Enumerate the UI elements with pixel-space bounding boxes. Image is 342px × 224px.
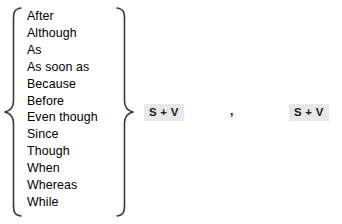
list-item: While [27, 194, 115, 211]
left-curly-brace-icon [2, 6, 24, 218]
list-item: Before [27, 93, 115, 110]
subject-verb-token-second: S + V [289, 104, 329, 121]
list-item: Because [27, 76, 115, 93]
list-item: Since [27, 126, 115, 143]
clause-separator-comma: , [230, 104, 233, 118]
conjunction-group: After Although As As soon as Because Bef… [0, 0, 150, 224]
list-item: Although [27, 25, 115, 42]
list-item: After [27, 8, 115, 25]
list-item: As soon as [27, 59, 115, 76]
list-item: Whereas [27, 177, 115, 194]
clause-pattern: S + V , S + V [140, 0, 342, 224]
list-item: Though [27, 143, 115, 160]
subject-verb-token-first: S + V [144, 104, 184, 121]
conjunction-list: After Although As As soon as Because Bef… [27, 8, 115, 211]
list-item: As [27, 42, 115, 59]
right-curly-brace-icon [114, 6, 136, 218]
list-item: When [27, 160, 115, 177]
list-item: Even though [27, 109, 115, 126]
